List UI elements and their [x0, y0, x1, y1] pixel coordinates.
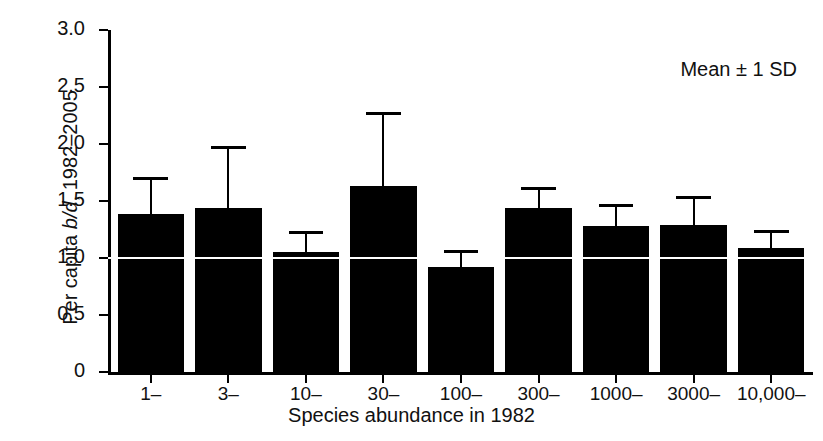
error-bar-cap	[289, 231, 324, 234]
error-bar-cap	[521, 187, 556, 190]
y-tick-label: 1.0	[57, 245, 85, 268]
x-tick-10–	[305, 374, 307, 383]
error-bar-cap	[599, 204, 634, 207]
y-tick-2.5: 2.5	[99, 86, 108, 88]
error-bar-cap	[133, 177, 168, 180]
x-tick-100–	[460, 374, 462, 383]
bar-3–	[195, 208, 262, 372]
y-axis-line	[108, 30, 111, 373]
y-tick-label: 0.5	[57, 302, 85, 325]
bar-1000–	[583, 226, 650, 372]
x-tick-3–	[227, 374, 229, 383]
x-tick-1–	[150, 374, 152, 383]
x-tick-label: 100–	[440, 383, 482, 405]
y-tick-0: 0	[99, 371, 108, 373]
legend-annotation: Mean ± 1 SD	[680, 58, 797, 81]
error-bar-stem	[538, 187, 540, 208]
y-tick-1.5: 1.5	[99, 200, 108, 202]
y-tick-3.0: 3.0	[99, 29, 108, 31]
bar-10,000–	[738, 248, 805, 372]
error-bar-stem	[227, 146, 229, 208]
error-bar-cap	[444, 250, 479, 253]
x-tick-10,000–	[770, 374, 772, 383]
x-tick-3000–	[693, 374, 695, 383]
y-tick-2.0: 2.0	[99, 143, 108, 145]
x-tick-label: 1–	[140, 383, 161, 405]
bar-10–	[273, 252, 340, 372]
error-bar-stem	[693, 196, 695, 225]
error-bar-stem	[615, 204, 617, 226]
x-tick-300–	[538, 374, 540, 383]
error-bar-stem	[382, 112, 384, 186]
error-bar-cap	[211, 146, 246, 149]
x-tick-30–	[382, 374, 384, 383]
error-bar-cap	[676, 196, 711, 199]
x-tick-label: 3000–	[667, 383, 720, 405]
bar-100–	[428, 267, 495, 372]
error-bar-stem	[305, 231, 307, 253]
y-tick-0.5: 0.5	[99, 314, 108, 316]
x-tick-label: 10–	[290, 383, 322, 405]
x-tick-label: 1000–	[590, 383, 643, 405]
x-tick-1000–	[615, 374, 617, 383]
y-tick-label: 2.5	[57, 74, 85, 97]
x-tick-label: 30–	[368, 383, 400, 405]
bar-3000–	[660, 225, 727, 372]
x-tick-label: 3–	[218, 383, 239, 405]
plot-area: 00.51.01.52.02.53.0 1–3–10–30–100–300–10…	[112, 30, 810, 372]
bar-1–	[118, 214, 185, 372]
error-bar-cap	[366, 112, 401, 115]
bar-300–	[505, 208, 572, 372]
bar-30–	[350, 186, 417, 372]
error-bar-cap	[754, 230, 789, 233]
chart-figure: Per capita b/d, 1982–2005 00.51.01.52.02…	[0, 0, 823, 441]
y-tick-1.0: 1.0	[99, 257, 108, 259]
y-tick-label: 0	[74, 359, 85, 382]
error-bar-stem	[150, 177, 152, 213]
y-tick-label: 1.5	[57, 188, 85, 211]
y-tick-label: 3.0	[57, 17, 85, 40]
y-tick-label: 2.0	[57, 131, 85, 154]
x-tick-label: 10,000–	[737, 383, 806, 405]
x-axis-title: Species abundance in 1982	[0, 404, 823, 427]
x-tick-label: 300–	[517, 383, 559, 405]
